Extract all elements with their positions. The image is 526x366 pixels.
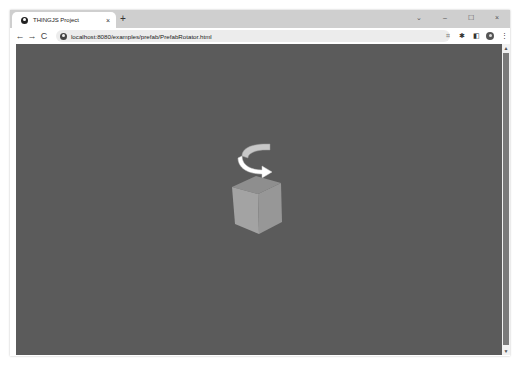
tab-search-icon[interactable]: ⌄ [406, 10, 432, 26]
screenshot-icon[interactable]: ⌗ [442, 28, 454, 44]
maximize-button[interactable]: ☐ [458, 10, 484, 26]
forward-button[interactable]: → [26, 28, 38, 44]
toolbar-actions: ⌗ ✱ ◧ ⋮ [440, 28, 510, 44]
back-button[interactable]: ← [14, 28, 26, 44]
new-tab-button[interactable]: + [120, 13, 126, 25]
site-info-icon[interactable] [60, 33, 67, 40]
tab-close-icon[interactable]: × [106, 17, 110, 24]
side-panel-icon[interactable]: ◧ [470, 28, 482, 44]
browser-window: THINGJS Project × + ⌄ – ☐ × ← → C localh… [10, 10, 510, 356]
close-window-button[interactable]: × [484, 10, 510, 26]
tab-strip: THINGJS Project × + ⌄ – ☐ × [10, 10, 510, 28]
browser-toolbar: ← → C localhost:8080/examples/prefab/Pre… [10, 28, 510, 44]
scroll-down-arrow-icon[interactable]: ▼ [502, 347, 510, 355]
tab-thingjs-project[interactable]: THINGJS Project × [12, 12, 116, 28]
extensions-icon[interactable]: ✱ [456, 28, 468, 44]
rotation-arrow-icon [238, 156, 272, 178]
profile-button[interactable] [484, 28, 496, 44]
url-text[interactable]: localhost:8080/examples/prefab/PrefabRot… [71, 33, 212, 40]
window-controls: ⌄ – ☐ × [406, 10, 510, 26]
vertical-scrollbar[interactable]: ▲ ▼ [502, 44, 510, 355]
globe-icon [21, 17, 28, 24]
minimize-button[interactable]: – [432, 10, 458, 26]
scroll-up-arrow-icon[interactable]: ▲ [502, 44, 510, 52]
3d-viewport-canvas[interactable] [16, 44, 502, 355]
scroll-thumb[interactable] [503, 53, 509, 345]
address-bar[interactable]: localhost:8080/examples/prefab/PrefabRot… [56, 30, 450, 42]
scene [16, 44, 502, 355]
avatar-icon [486, 32, 494, 40]
tab-title: THINGJS Project [33, 17, 106, 23]
menu-icon[interactable]: ⋮ [498, 28, 510, 44]
reload-button[interactable]: C [38, 28, 50, 44]
rotation-arrow-back [242, 144, 270, 158]
cube-left-face [232, 187, 259, 234]
